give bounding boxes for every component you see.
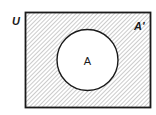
set-a-label: A <box>84 55 92 67</box>
complement-label: A' <box>133 20 145 32</box>
universe-label: U <box>12 15 21 27</box>
venn-diagram: U A' A <box>0 0 156 115</box>
